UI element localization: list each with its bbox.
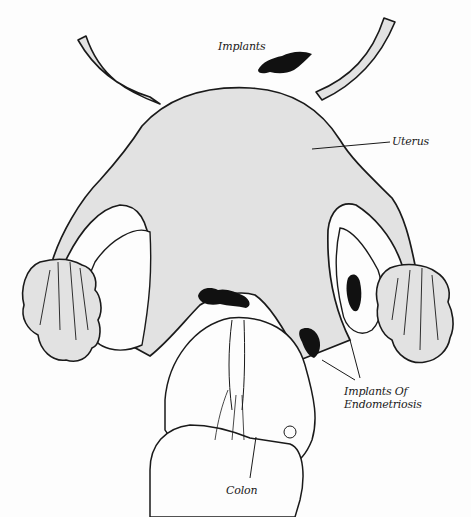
implant-top xyxy=(258,52,312,73)
label-uterus: Uterus xyxy=(392,135,429,148)
left-fimbriae xyxy=(23,259,101,361)
left-upper-ligament xyxy=(78,36,160,104)
label-line-2: Endometriosis xyxy=(344,398,422,411)
endometriosis-leader-1 xyxy=(350,340,360,378)
label-implants-of-endometriosis: Implants Of Endometriosis xyxy=(344,385,422,411)
endometriosis-leader-2 xyxy=(322,360,355,380)
label-implants-top: Implants xyxy=(218,40,265,53)
uterus-diagram xyxy=(0,0,471,517)
label-colon: Colon xyxy=(226,484,257,497)
right-fimbriae xyxy=(377,265,454,363)
right-upper-ligament xyxy=(316,18,395,100)
label-line-1: Implants Of xyxy=(344,385,422,398)
